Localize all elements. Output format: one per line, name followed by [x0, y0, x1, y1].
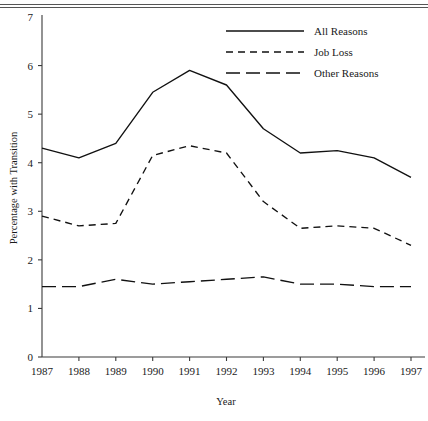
legend-label-all-reasons: All Reasons	[314, 25, 367, 37]
header-rule-bottom	[0, 7, 428, 8]
x-tick-label: 1991	[179, 365, 201, 377]
y-tick-label: 4	[28, 157, 34, 169]
y-tick-label: 3	[28, 205, 34, 217]
x-tick-label: 1993	[252, 365, 275, 377]
x-tick-label: 1997	[400, 365, 423, 377]
series-line-job-loss	[42, 146, 411, 246]
chart-figure: 01234567 1987198819891990199119921993199…	[0, 0, 428, 421]
chart-legend: All ReasonsJob LossOther Reasons	[226, 25, 378, 79]
y-axis-title: Percentage with Transition	[8, 131, 19, 244]
x-tick-label: 1987	[31, 365, 54, 377]
y-tick-label: 6	[28, 60, 34, 72]
x-tick-label: 1990	[142, 365, 165, 377]
series-layer	[42, 70, 411, 286]
x-axis-title: Year	[216, 396, 236, 407]
x-tick-label: 1994	[289, 365, 312, 377]
x-tick-label: 1995	[326, 365, 349, 377]
y-tick-label: 2	[28, 254, 34, 266]
y-axis-tick-labels: 01234567	[28, 11, 34, 363]
x-tick-label: 1989	[105, 365, 128, 377]
x-tick-label: 1988	[68, 365, 91, 377]
header-rule-top	[0, 4, 428, 5]
y-tick-label: 1	[28, 302, 34, 314]
x-tick-label: 1992	[216, 365, 238, 377]
x-axis-tick-labels: 1987198819891990199119921993199419951996…	[31, 365, 423, 377]
y-tick-label: 0	[28, 351, 34, 363]
series-line-all-reasons	[42, 70, 411, 177]
y-axis-ticks	[38, 66, 42, 357]
x-axis-ticks	[79, 357, 411, 361]
legend-label-job-loss: Job Loss	[314, 46, 353, 58]
line-chart-plot: 01234567 1987198819891990199119921993199…	[0, 0, 428, 421]
y-tick-label: 7	[28, 11, 34, 23]
legend-label-other-reasons: Other Reasons	[314, 67, 378, 79]
y-tick-label: 5	[28, 108, 34, 120]
series-line-other-reasons	[42, 277, 411, 287]
x-tick-label: 1996	[363, 365, 386, 377]
